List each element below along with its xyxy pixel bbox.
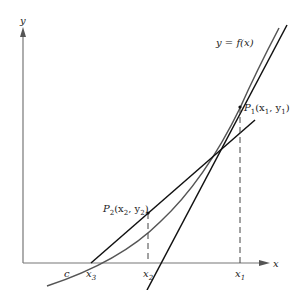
tick-label-x3: x3: [86, 268, 97, 282]
tick-label-c: c: [64, 268, 70, 279]
newton-method-diagram: y x y = f(x) P1(x1, y1) P2(x2, y2) c x3 …: [0, 0, 301, 290]
y-axis-label: y: [19, 15, 26, 26]
curve-f: [47, 28, 279, 286]
point-label-p1: P1(x1, y1): [243, 102, 290, 116]
tick-label-x1: x1: [235, 268, 245, 282]
y-axis: [20, 27, 26, 263]
tick-label-x2: x2: [143, 268, 154, 282]
curve-label: y = f(x): [215, 37, 254, 48]
x-axis-arrow-icon: [259, 260, 270, 266]
point-label-p2: P2(x2, y2): [102, 203, 149, 217]
tangent-line-p1: [147, 25, 287, 290]
x-axis: [23, 260, 270, 266]
y-axis-arrow-icon: [20, 27, 26, 37]
x-axis-label: x: [273, 258, 279, 269]
point-p1: [238, 105, 241, 108]
